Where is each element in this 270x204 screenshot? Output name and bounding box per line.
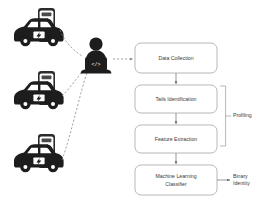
ev-unit-3 [14,134,64,172]
profiling-bracket [220,86,226,146]
ev-unit-1 [14,8,64,46]
diagram-svg: </> Data Collection Tails Identification… [0,0,270,204]
output-label-line2: Identity [233,180,250,186]
flow-box-label: Tails Identification [156,96,197,102]
ev-unit-2 [14,71,64,109]
flow-box-ml-classifier[interactable]: Machine Learning Classifier [135,165,217,195]
flow-box-label: Data Collection [158,55,193,61]
profiling-label: Profiling [233,112,252,118]
diagram-canvas: </> Data Collection Tails Identification… [0,0,270,204]
flow-box-tails-identification[interactable]: Tails Identification [135,85,217,113]
link-unit3-to-attacker [62,70,88,160]
attacker-figure: </> [81,37,112,73]
flow-box-label-line2: Classifier [165,181,187,187]
flow-box-feature-extraction[interactable]: Feature Extraction [135,125,217,153]
output-label-line1: Binary [233,173,248,179]
flow-box-label-line1: Machine Learning [155,173,196,179]
flow-box-label: Feature Extraction [155,136,197,142]
flow-box-data-collection[interactable]: Data Collection [135,43,217,73]
code-glyph: </> [91,62,100,68]
